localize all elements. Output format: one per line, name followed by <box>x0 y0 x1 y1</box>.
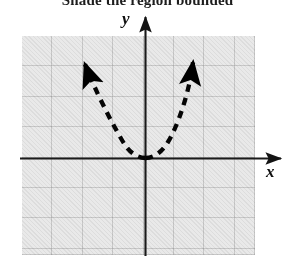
parabola-right-branch <box>146 62 194 158</box>
parabola-left-branch <box>85 64 146 158</box>
x-axis-label: x <box>266 163 275 180</box>
axes-and-curve-layer <box>0 0 295 278</box>
figure-parabola-shaded-region: Shade the region bounded y x <box>0 0 295 278</box>
y-axis-label: y <box>122 10 130 27</box>
